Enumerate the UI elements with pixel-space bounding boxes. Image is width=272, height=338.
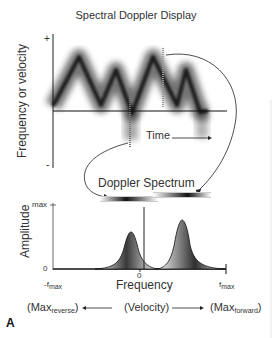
frequency-axis-label: Frequency — [116, 278, 173, 292]
y-axis-label-amplitude: Amplitude — [18, 205, 32, 258]
max-forward-close: ) — [258, 301, 262, 313]
reverse-spectrum-strip — [100, 197, 158, 201]
time-label: Time — [146, 129, 170, 141]
x-max-label: fmax — [219, 280, 234, 290]
max-forward-sub: forward — [234, 307, 257, 314]
forward-peak — [158, 220, 225, 269]
max-reverse-base: (Max — [27, 301, 51, 313]
y-max-label: max — [32, 200, 47, 209]
reverse-peak — [95, 232, 158, 269]
max-reverse-sub: reverse — [51, 307, 74, 314]
max-reverse-label: (Maxreverse) — [27, 301, 78, 314]
y-plus-label: + — [44, 33, 50, 44]
max-forward-label: (Maxforward) — [210, 301, 261, 314]
y-zero-label: 0 — [43, 264, 47, 273]
max-reverse-close: ) — [75, 301, 79, 313]
forward-spectrum-strip — [153, 193, 211, 197]
panel-letter: A — [6, 316, 15, 330]
doppler-waveform — [53, 48, 208, 148]
y-axis-label-frequency: Frequency or velocity — [15, 44, 29, 158]
x-min-sub: max — [49, 283, 62, 290]
x-min-label: -fmax — [44, 280, 62, 290]
doppler-spectrum-label: Doppler Spectrum — [98, 176, 195, 190]
y-minus-label: - — [46, 159, 49, 170]
velocity-label: (Velocity) — [124, 301, 169, 313]
x-max-sub: max — [221, 283, 234, 290]
max-forward-base: (Max — [210, 301, 234, 313]
